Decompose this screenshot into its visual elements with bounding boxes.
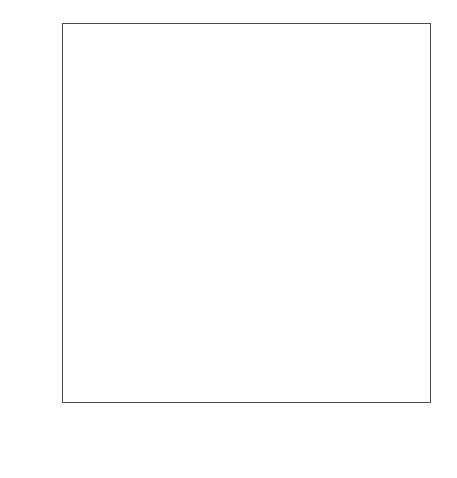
plot-frame <box>62 23 431 403</box>
normal-probability-plot <box>0 0 457 478</box>
